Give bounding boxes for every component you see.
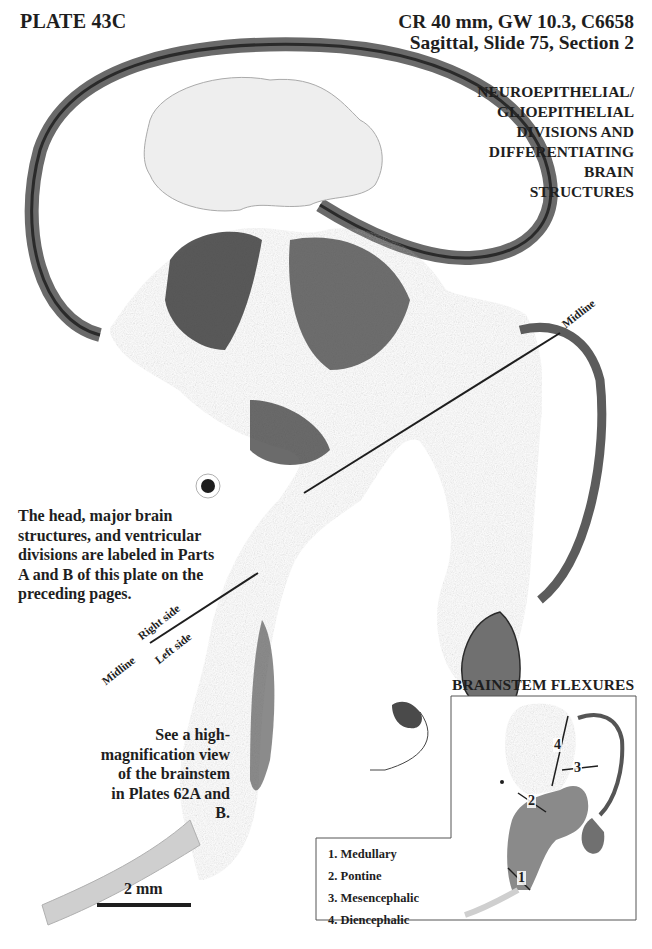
note-line: The head, major brain <box>18 506 268 526</box>
section-heading-line: DIFFERENTIATING <box>477 142 634 162</box>
scale-bar-label: 2 mm <box>124 880 163 898</box>
flexure-marker-3: 3 <box>573 761 582 775</box>
inset-title: BRAINSTEM FLEXURES <box>452 676 634 694</box>
note-line: preceding pages. <box>18 584 268 604</box>
section-heading-line: DIVISIONS AND <box>477 122 634 142</box>
legend-item-pontine: 2. Pontine <box>328 865 419 887</box>
inset-legend: 1. Medullary 2. Pontine 3. Mesencephalic… <box>328 843 419 931</box>
legend-item-diencephalic: 4. Diencephalic <box>328 909 419 931</box>
note-line: magnification view <box>95 745 230 765</box>
section-heading: NEUROEPITHELIAL/ GLIOEPITHELIAL DIVISION… <box>477 82 634 202</box>
flexure-marker-4: 4 <box>553 738 562 752</box>
flexure-marker-2: 2 <box>527 794 536 808</box>
legend-item-mesencephalic: 3. Mesencephalic <box>328 887 419 909</box>
choroid-plexus <box>144 77 382 211</box>
legend-item-medullary: 1. Medullary <box>328 843 419 865</box>
section-heading-line: NEUROEPITHELIAL/ <box>477 82 634 102</box>
scale-bar <box>97 903 191 907</box>
section-heading-line: BRAIN <box>477 162 634 182</box>
note-line: structures, and ventricular <box>18 526 268 546</box>
note-line: of the brainstem <box>95 764 230 784</box>
specimen-line-2: Sagittal, Slide 75, Section 2 <box>398 32 634 53</box>
note-line: divisions are labeled in Parts <box>18 545 268 565</box>
note-line: See a high- <box>95 725 230 745</box>
flexure-marker-1: 1 <box>517 871 526 885</box>
note-line: in Plates 62A and B. <box>95 784 230 823</box>
plate-title: PLATE 43C <box>20 10 126 33</box>
section-heading-line: GLIOEPITHELIAL <box>477 102 634 122</box>
brainstem-note: See a high- magnification view of the br… <box>95 725 230 823</box>
spinal-cord <box>42 820 200 925</box>
specimen-line-1: CR 40 mm, GW 10.3, C6658 <box>398 11 634 32</box>
specimen-info: CR 40 mm, GW 10.3, C6658 Sagittal, Slide… <box>398 11 634 53</box>
note-line: A and B of this plate on the <box>18 565 268 585</box>
section-heading-line: STRUCTURES <box>477 182 634 202</box>
labels-note: The head, major brain structures, and ve… <box>18 506 268 604</box>
